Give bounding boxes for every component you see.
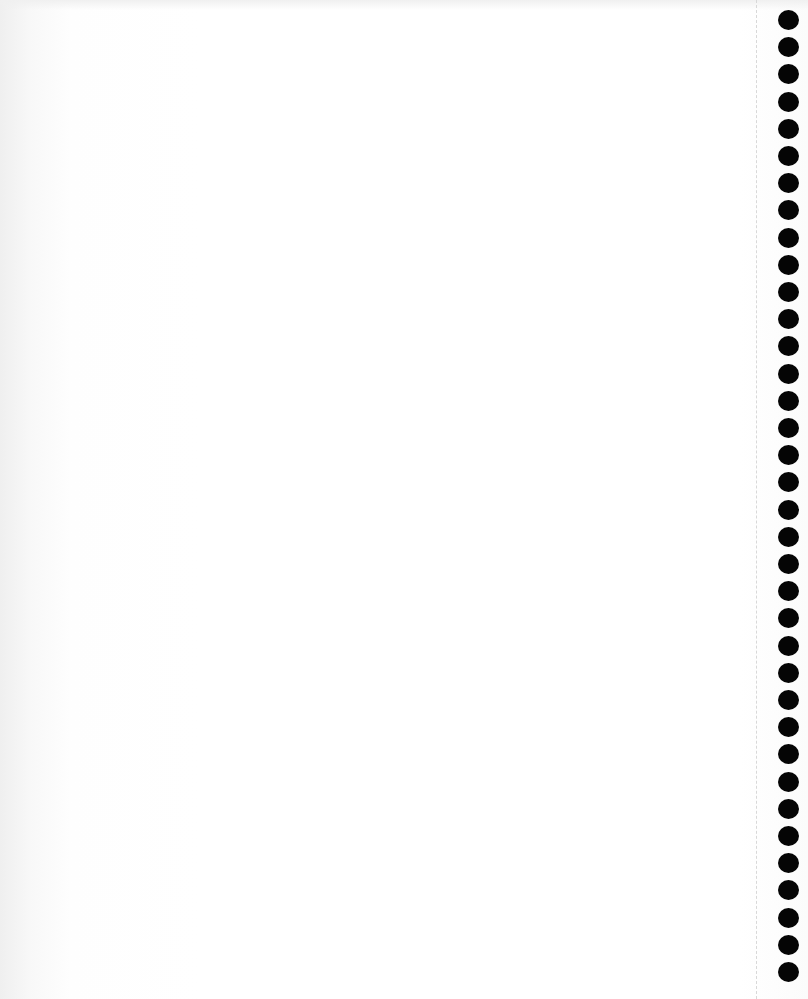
- binding-hole: [778, 119, 799, 139]
- binding-hole: [778, 799, 799, 819]
- binding-hole: [778, 554, 799, 574]
- binding-hole: [778, 935, 799, 955]
- perforation-line: [756, 0, 757, 999]
- binding-hole: [778, 636, 799, 656]
- binding-hole: [778, 772, 799, 792]
- binding-hole: [778, 717, 799, 737]
- binding-hole: [778, 64, 799, 84]
- binding-hole: [778, 690, 799, 710]
- binding-hole: [778, 445, 799, 465]
- binding-hole: [778, 391, 799, 411]
- binding-hole: [778, 880, 799, 900]
- binding-hole: [778, 200, 799, 220]
- binding-hole: [778, 608, 799, 628]
- binding-holes: [778, 0, 800, 999]
- binding-hole: [778, 282, 799, 302]
- binding-hole: [778, 527, 799, 547]
- binding-hole: [778, 92, 799, 112]
- binding-hole: [778, 744, 799, 764]
- binding-hole: [778, 228, 799, 248]
- binding-hole: [778, 962, 799, 982]
- binding-hole: [778, 472, 799, 492]
- binding-hole: [778, 364, 799, 384]
- binding-hole: [778, 10, 799, 30]
- binding-hole: [778, 336, 799, 356]
- binding-hole: [778, 173, 799, 193]
- binding-hole: [778, 37, 799, 57]
- notebook-page: [0, 0, 808, 999]
- binding-hole: [778, 500, 799, 520]
- binding-hole: [778, 826, 799, 846]
- binding-hole: [778, 581, 799, 601]
- binding-hole: [778, 663, 799, 683]
- binding-hole: [778, 418, 799, 438]
- binding-hole: [778, 309, 799, 329]
- binding-hole: [778, 146, 799, 166]
- binding-hole: [778, 908, 799, 928]
- binding-hole: [778, 255, 799, 275]
- binding-hole: [778, 853, 799, 873]
